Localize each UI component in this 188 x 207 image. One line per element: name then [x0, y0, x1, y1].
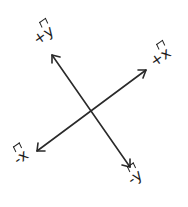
plus-x-arrowhead-icon — [138, 70, 146, 78]
x-axis-line — [37, 70, 146, 151]
axes-diagram — [0, 0, 188, 207]
